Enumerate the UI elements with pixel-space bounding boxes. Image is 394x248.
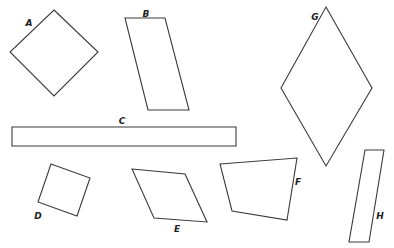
shape-a-square <box>10 10 98 96</box>
label-a: A <box>26 19 33 28</box>
shape-c-rectangle <box>12 127 236 146</box>
shape-g-rhombus <box>281 7 372 166</box>
label-c: C <box>119 117 126 126</box>
label-g: G <box>311 13 318 22</box>
label-d: D <box>34 212 41 221</box>
shape-e-parallelogram <box>132 169 207 222</box>
label-f: F <box>295 178 301 187</box>
label-h: H <box>376 212 384 221</box>
diagram-canvas <box>0 0 394 248</box>
label-b: B <box>143 10 150 19</box>
shape-f-trapezoid <box>220 158 297 220</box>
label-e: E <box>174 225 180 234</box>
shape-h-parallelogram <box>349 150 384 242</box>
shape-d-square <box>38 164 90 216</box>
shape-b-parallelogram <box>125 18 189 110</box>
